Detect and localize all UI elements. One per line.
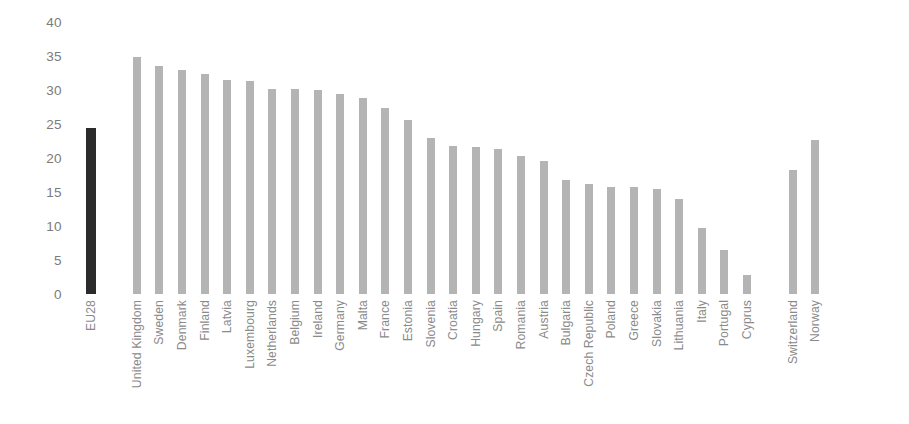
plot-area: EU28United KingdomSwedenDenmarkFinlandLa… (70, 0, 909, 424)
bar (585, 184, 593, 294)
x-axis-tick-label: Denmark (175, 300, 189, 350)
bar-group: United Kingdom (126, 0, 149, 294)
bar (291, 89, 299, 294)
bar-group: Slovakia (645, 0, 668, 294)
bar-group: Croatia (442, 0, 465, 294)
bar (789, 170, 797, 294)
y-axis-tick-label: 35 (10, 49, 62, 64)
x-axis-tick-label: Bulgaria (559, 300, 573, 346)
bar (155, 66, 163, 294)
bar (698, 228, 706, 294)
x-axis-tick-label: EU28 (84, 300, 98, 331)
bar (246, 81, 254, 294)
x-axis-tick-label: Greece (627, 300, 641, 341)
x-axis-tick-label: Cyprus (740, 300, 754, 339)
bar-group: Cyprus (736, 0, 759, 294)
bar-group: Belgium (284, 0, 307, 294)
bar (630, 187, 638, 294)
y-axis-tick-label: 40 (10, 15, 62, 30)
bar (494, 149, 502, 294)
bar (336, 94, 344, 294)
bar (607, 187, 615, 294)
bar-chart: 4035302520151050 EU28United KingdomSwede… (0, 0, 909, 424)
bar-group: Malta (352, 0, 375, 294)
bar-group: Ireland (306, 0, 329, 294)
bar (675, 199, 683, 294)
x-axis-tick-label: Switzerland (786, 300, 800, 364)
bar (268, 89, 276, 294)
x-axis-tick-label: Croatia (446, 300, 460, 340)
bar-group: Norway (804, 0, 827, 294)
bar-group: France (374, 0, 397, 294)
bar (449, 146, 457, 294)
bar (381, 108, 389, 294)
bar-group: Austria (532, 0, 555, 294)
bar-group: Netherlands (261, 0, 284, 294)
bar (743, 275, 751, 294)
bar (562, 180, 570, 294)
y-axis: 4035302520151050 (0, 0, 70, 424)
x-axis-tick-label: Norway (808, 300, 822, 342)
y-axis-tick-label: 30 (10, 83, 62, 98)
bar (472, 147, 480, 294)
x-axis-tick-label: Austria (537, 300, 551, 339)
bar-group: Denmark (171, 0, 194, 294)
x-axis-tick-label: Portugal (717, 300, 731, 346)
bar-group: Sweden (148, 0, 171, 294)
x-axis-tick-label: Poland (604, 300, 618, 339)
bar (404, 120, 412, 294)
bar (223, 80, 231, 294)
bar (811, 140, 819, 294)
x-axis-tick-label: Czech Republic (582, 300, 596, 387)
x-axis-tick-label: Netherlands (265, 300, 279, 367)
y-axis-tick-label: 10 (10, 219, 62, 234)
bar-group: Germany (329, 0, 352, 294)
bar-group: Czech Republic (578, 0, 601, 294)
bar-group: Finland (193, 0, 216, 294)
y-axis-tick-label: 0 (10, 287, 62, 302)
x-axis-tick-label: Slovakia (650, 300, 664, 347)
bar (201, 74, 209, 294)
bar (653, 189, 661, 294)
bar-group: Luxembourg (239, 0, 262, 294)
bar-group: Bulgaria (555, 0, 578, 294)
x-axis-tick-label: Spain (491, 300, 505, 332)
x-axis-tick-label: Malta (356, 300, 370, 330)
bar-group: Poland (600, 0, 623, 294)
bar-group: Estonia (397, 0, 420, 294)
bar-group: Switzerland (781, 0, 804, 294)
bar-group: Latvia (216, 0, 239, 294)
x-axis-tick-label: Slovenia (424, 300, 438, 348)
x-axis-tick-label: Germany (333, 300, 347, 351)
x-axis-tick-label: Estonia (401, 300, 415, 341)
x-axis-tick-label: Belgium (288, 300, 302, 345)
bar (720, 250, 728, 294)
y-axis-tick-label: 15 (10, 185, 62, 200)
y-axis-tick-label: 5 (10, 253, 62, 268)
bar-group: Italy (691, 0, 714, 294)
x-axis-tick-label: Ireland (311, 300, 325, 338)
x-axis-tick-label: Luxembourg (243, 300, 257, 369)
bar (314, 90, 322, 294)
x-axis-tick-label: Finland (198, 300, 212, 341)
bar-group: Greece (623, 0, 646, 294)
x-axis-tick-label: Lithuania (672, 300, 686, 350)
bar (86, 128, 96, 294)
bar-group: Hungary (465, 0, 488, 294)
x-axis-tick-label: Sweden (152, 300, 166, 345)
bar-group: Portugal (713, 0, 736, 294)
x-axis-tick-label: United Kingdom (130, 300, 144, 388)
bar-group: EU28 (80, 0, 103, 294)
bar (133, 57, 141, 294)
x-axis-tick-label: Romania (514, 300, 528, 349)
y-axis-tick-label: 20 (10, 151, 62, 166)
bar-group: Lithuania (668, 0, 691, 294)
x-axis-tick-label: France (378, 300, 392, 339)
x-axis-tick-label: Latvia (220, 300, 234, 333)
bar (517, 156, 525, 294)
bar-group: Romania (510, 0, 533, 294)
x-axis-tick-label: Italy (695, 300, 709, 323)
bar (178, 70, 186, 294)
bar (427, 138, 435, 294)
y-axis-tick-label: 25 (10, 117, 62, 132)
